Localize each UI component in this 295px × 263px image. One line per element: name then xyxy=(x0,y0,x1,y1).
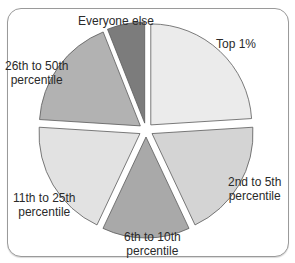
label-top-1-percent: Top 1% xyxy=(216,37,256,51)
label-26th-to-50th-percentile: 26th to 50th percentile xyxy=(5,59,68,87)
label-everyone-else: Everyone else xyxy=(78,14,154,28)
label-6th-to-10th-percentile: 6th to 10th percentile xyxy=(124,230,181,258)
label-11th-to-25th-percentile: 11th to 25th percentile xyxy=(13,191,76,219)
label-2nd-to-5th-percentile: 2nd to 5th percentile xyxy=(228,175,281,203)
